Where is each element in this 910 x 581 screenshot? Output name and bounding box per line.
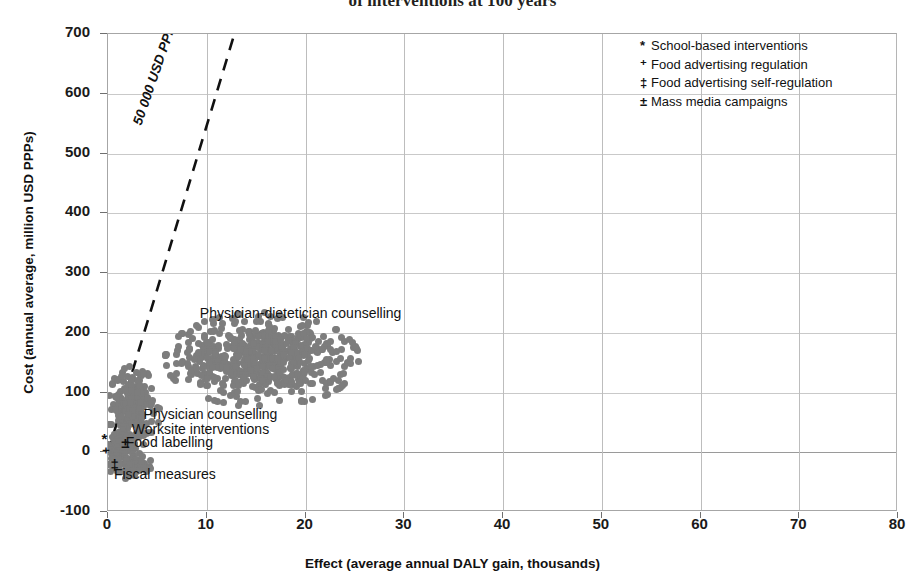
scatter-point — [175, 343, 182, 350]
scatter-point — [197, 381, 204, 388]
legend: *School-based interventions⁺Food adverti… — [640, 37, 900, 111]
x-axis-tick-label: 80 — [877, 515, 910, 532]
legend-label: Mass media campaigns — [651, 94, 788, 109]
y-axis-tick-mark — [100, 33, 107, 34]
scatter-point — [242, 398, 249, 405]
y-axis-tick-mark — [100, 332, 107, 333]
scatter-point — [114, 377, 121, 384]
scatter-point — [327, 338, 334, 345]
x-axis-tick-mark — [700, 512, 701, 518]
scatter-point — [298, 398, 305, 405]
scatter-point — [301, 369, 308, 376]
scatter-point — [274, 379, 281, 386]
scatter-point — [314, 362, 321, 369]
y-axis-tick-label: 700 — [28, 23, 90, 40]
scatter-point — [333, 348, 340, 355]
scatter-point — [113, 394, 120, 401]
y-axis-tick-label: 500 — [28, 143, 90, 160]
scatter-point — [332, 326, 339, 333]
y-axis-title: Cost (annual average, million USD PPPs) — [21, 53, 36, 473]
scatter-point — [309, 396, 316, 403]
scatter-point — [217, 387, 224, 394]
x-axis-tick-mark — [403, 512, 404, 518]
legend-item: ‡Food advertising self-regulation — [640, 74, 900, 93]
plot-annotation-label: Physician-dietetician counselling — [200, 305, 402, 321]
y-axis-tick-mark — [100, 272, 107, 273]
scatter-point — [210, 320, 217, 327]
y-axis-tick-label: 600 — [28, 83, 90, 100]
scatter-point — [333, 358, 340, 365]
y-axis-tick-label: -100 — [28, 501, 90, 518]
scatter-point — [187, 328, 194, 335]
legend-symbol: ‡ — [640, 74, 651, 93]
scatter-point — [204, 382, 211, 389]
legend-symbol: * — [640, 37, 651, 56]
scatter-point — [280, 366, 287, 373]
scatter-point — [323, 356, 330, 363]
legend-label: School-based interventions — [651, 38, 808, 53]
scatter-point — [138, 458, 145, 465]
scatter-point — [163, 362, 170, 369]
scatter-point — [258, 386, 265, 393]
scatter-point — [355, 358, 362, 365]
scatter-point — [140, 370, 147, 377]
scatter-point — [339, 382, 346, 389]
scatter-point — [236, 327, 243, 334]
legend-item: ±Mass media campaigns — [640, 93, 900, 112]
y-axis-tick-label: 0 — [28, 441, 90, 458]
y-axis-tick-label: 300 — [28, 262, 90, 279]
scatter-point — [309, 380, 316, 387]
scatter-point — [280, 359, 287, 366]
scatter-point — [204, 375, 211, 382]
intervention-symbol-marker: ‡ — [110, 457, 118, 472]
scatter-point — [148, 385, 155, 392]
scatter-point — [223, 341, 230, 348]
y-axis-tick-mark — [100, 153, 107, 154]
scatter-point — [186, 346, 193, 353]
scatter-point — [300, 330, 307, 337]
scatter-point — [266, 323, 273, 330]
scatter-point — [211, 397, 218, 404]
legend-label: Food advertising self-regulation — [651, 75, 832, 90]
scatter-point — [276, 397, 283, 404]
scatter-point — [244, 356, 251, 363]
legend-item: *School-based interventions — [640, 37, 900, 56]
scatter-point — [195, 340, 202, 347]
x-axis-title: Effect (average annual DALY gain, thousa… — [0, 556, 905, 571]
legend-symbol: ± — [640, 93, 651, 112]
scatter-point — [223, 364, 230, 371]
scatter-point — [298, 388, 305, 395]
scatter-point — [269, 365, 276, 372]
scatter-point — [189, 335, 196, 342]
scatter-point — [268, 347, 275, 354]
plot-annotation-label: Fiscal measures — [114, 466, 216, 482]
scatter-point — [340, 370, 347, 377]
scatter-point — [296, 379, 303, 386]
x-axis-tick-mark — [601, 512, 602, 518]
scatter-point — [219, 320, 226, 327]
scatter-point — [222, 353, 229, 360]
scatter-point — [320, 333, 327, 340]
y-axis-tick-label: 200 — [28, 322, 90, 339]
scatter-point — [232, 377, 239, 384]
scatter-point — [195, 349, 202, 356]
scatter-point — [317, 369, 324, 376]
y-axis-tick-mark — [100, 212, 107, 213]
scatter-point — [245, 328, 252, 335]
scatter-point — [283, 340, 290, 347]
x-axis-tick-mark — [206, 512, 207, 518]
scatter-point — [288, 378, 295, 385]
scatter-point — [212, 350, 219, 357]
plot-annotation-label: Food labelling — [126, 434, 213, 450]
scatter-point — [254, 395, 261, 402]
scatter-point — [234, 388, 241, 395]
scatter-point — [277, 336, 284, 343]
scatter-point — [250, 373, 257, 380]
scatter-point — [121, 365, 128, 372]
scatter-point — [134, 377, 141, 384]
scatter-point — [271, 389, 278, 396]
scatter-point — [175, 333, 182, 340]
scatter-point — [311, 371, 318, 378]
scatter-point — [185, 376, 192, 383]
scatter-point — [347, 355, 354, 362]
